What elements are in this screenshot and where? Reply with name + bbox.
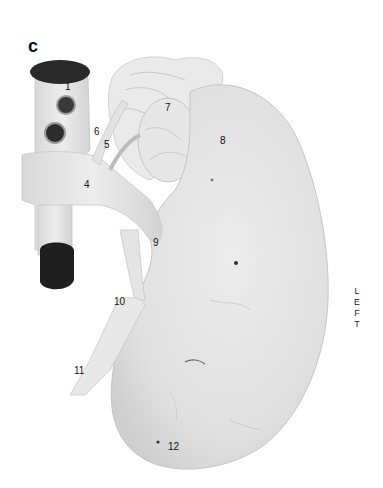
label-8: 8 [220, 136, 226, 146]
kidney-photo [0, 0, 383, 488]
panel-letter: c [28, 36, 38, 57]
label-12: 12 [168, 442, 179, 452]
label-6: 6 [94, 127, 100, 137]
label-5: 5 [104, 140, 110, 150]
label-4: 4 [84, 180, 90, 190]
side-label-left: L E F T [352, 286, 362, 330]
label-10: 10 [114, 297, 125, 307]
side-letter: F [352, 308, 362, 319]
aorta [35, 72, 90, 160]
vessel-lumen-bottom [40, 243, 74, 290]
side-letter: T [352, 319, 362, 330]
label-9: 9 [153, 238, 159, 248]
side-letter: L [352, 286, 362, 297]
label-7: 7 [165, 103, 171, 113]
side-letter: E [352, 297, 362, 308]
label-1: 1 [65, 82, 71, 92]
kidney-specimen-figure: c 1 5 6 4 7 8 9 10 11 12 L E F T [0, 0, 383, 488]
label-11: 11 [74, 366, 84, 376]
